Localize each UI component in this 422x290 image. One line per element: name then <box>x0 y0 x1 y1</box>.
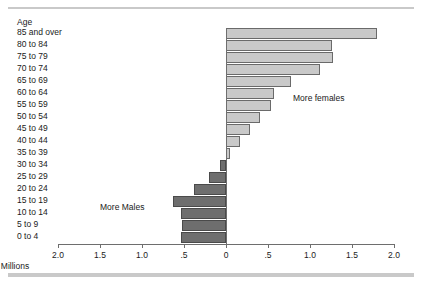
category-label: 25 to 29 <box>17 171 48 181</box>
x-axis-tick-label: 2.0 <box>43 250 73 260</box>
category-label: 15 to 19 <box>17 195 48 205</box>
x-axis-tick <box>226 244 227 248</box>
bar-female <box>226 100 271 111</box>
x-axis-title: Millions <box>1 261 29 271</box>
bar-female <box>226 112 260 123</box>
x-axis-tick <box>394 244 395 248</box>
bar-female <box>226 28 377 39</box>
bar-male <box>173 196 226 207</box>
category-label: 5 to 9 <box>17 219 38 229</box>
bar-male <box>182 220 226 231</box>
category-label: 20 to 24 <box>17 183 48 193</box>
x-axis-tick-label: 0 <box>211 250 241 260</box>
category-label: 45 to 49 <box>17 123 48 133</box>
category-label: 85 and over <box>17 27 62 37</box>
category-label: 55 to 59 <box>17 99 48 109</box>
bar-female <box>226 76 291 87</box>
bar-male <box>209 172 226 183</box>
category-label: 30 to 34 <box>17 159 48 169</box>
bar-female <box>226 40 332 51</box>
x-axis-tick <box>268 244 269 248</box>
category-label: 35 to 39 <box>17 147 48 157</box>
x-axis-tick-label: 1.5 <box>85 250 115 260</box>
category-label: 75 to 79 <box>17 51 48 61</box>
category-label: 40 to 44 <box>17 135 48 145</box>
population-pyramid-plot: Age 85 and over80 to 8475 to 7970 to 746… <box>0 0 422 290</box>
x-axis-tick-label: 1.0 <box>127 250 157 260</box>
bar-female <box>226 124 250 135</box>
annotation-more-females: More females <box>293 93 345 103</box>
bar-male <box>181 232 226 243</box>
x-axis-tick <box>184 244 185 248</box>
bar-male <box>194 184 226 195</box>
x-axis-tick <box>100 244 101 248</box>
bar-female <box>226 88 274 99</box>
category-label: 60 to 64 <box>17 87 48 97</box>
bar-male <box>181 208 226 219</box>
category-label: 80 to 84 <box>17 39 48 49</box>
bar-female <box>226 52 333 63</box>
x-axis-title-wrap: Millions <box>0 261 422 271</box>
x-axis-tick-label: .5 <box>169 250 199 260</box>
age-axis-header: Age <box>17 17 32 27</box>
x-axis-tick-label: 2.0 <box>379 250 409 260</box>
x-axis-tick-label: 1.0 <box>295 250 325 260</box>
category-label: 0 to 4 <box>17 231 38 241</box>
figure-canvas: Age 85 and over80 to 8475 to 7970 to 746… <box>0 0 422 290</box>
category-label: 10 to 14 <box>17 207 48 217</box>
category-label: 50 to 54 <box>17 111 48 121</box>
x-axis-tick <box>352 244 353 248</box>
x-axis-tick <box>310 244 311 248</box>
bar-female <box>226 136 240 147</box>
category-label: 70 to 74 <box>17 63 48 73</box>
x-axis-tick <box>142 244 143 248</box>
x-axis-tick-label: 1.5 <box>337 250 367 260</box>
x-axis-tick-label: .5 <box>253 250 283 260</box>
zero-reference-line <box>226 28 227 244</box>
x-axis-tick <box>58 244 59 248</box>
bar-female <box>226 64 320 75</box>
annotation-more-males: More Males <box>100 202 144 212</box>
category-label: 65 to 69 <box>17 75 48 85</box>
